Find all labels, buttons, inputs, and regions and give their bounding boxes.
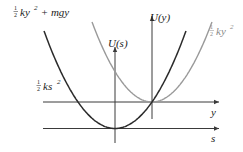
exp: 2 [230, 23, 234, 31]
y-axis-label: y [210, 106, 216, 118]
potential-energy-diagram: 1 2 ky 2 + mgy U(y) U(s) 1 2 ky 2 1 2 ks… [0, 0, 243, 152]
expr: ky [216, 25, 226, 37]
exp: 2 [57, 78, 61, 86]
frac-num: 1 [14, 5, 17, 11]
frac-den: 2 [37, 86, 40, 92]
frac-num: 1 [37, 79, 40, 85]
frac-den: 2 [210, 31, 213, 37]
diagram-canvas: 1 2 ky 2 + mgy U(y) U(s) 1 2 ky 2 1 2 ks… [0, 0, 243, 152]
s-axis-label: s [211, 132, 215, 144]
label-half-ky2: 1 2 ky 2 [210, 23, 235, 37]
label-half-ks2: 1 2 ks 2 [37, 78, 62, 92]
frac-den: 2 [14, 12, 17, 18]
U-s-label: U(s) [108, 37, 128, 50]
tail: + mgy [38, 6, 69, 18]
U-y-label: U(y) [150, 11, 170, 24]
label-half-ky2-plus-mgy: 1 2 ky 2 + mgy [14, 4, 70, 18]
expr: ks [43, 80, 52, 92]
frac-num: 1 [210, 24, 213, 30]
expr: ky [20, 6, 30, 18]
